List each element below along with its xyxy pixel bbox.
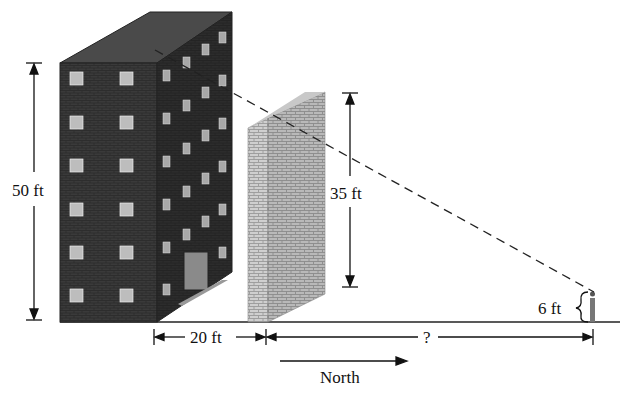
building-to-wall-label: 20 ft	[190, 329, 222, 346]
brick-wall	[248, 92, 325, 322]
person-height-label: 6 ft	[538, 300, 561, 317]
building-entrance	[184, 252, 208, 290]
building	[60, 12, 232, 322]
person-figure	[590, 292, 595, 323]
wall-to-person-label: ?	[423, 329, 431, 346]
wall-front-edge	[248, 118, 268, 322]
wall-side-face	[268, 92, 325, 322]
building-front-face	[60, 63, 157, 322]
north-label: North	[320, 369, 360, 386]
north-arrow-icon	[280, 357, 407, 365]
diagram-canvas	[0, 0, 625, 402]
wall-height-label: 35 ft	[330, 185, 362, 202]
building-height-label: 50 ft	[12, 182, 44, 199]
person-height-brace	[576, 292, 588, 322]
